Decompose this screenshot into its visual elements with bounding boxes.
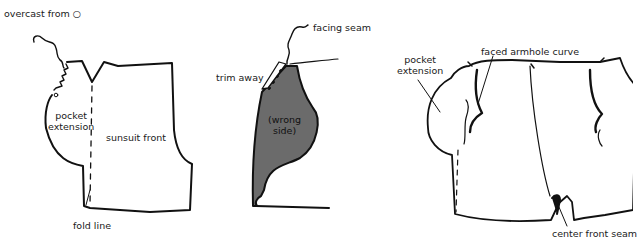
facing-seam-thread bbox=[287, 25, 308, 64]
center-front-notch bbox=[531, 64, 534, 68]
right-armhole bbox=[590, 70, 602, 132]
label-faced-armhole-curve: faced armhole curve bbox=[481, 46, 579, 57]
overcast-stitch bbox=[54, 64, 68, 90]
label-pocket-line2-right: extension bbox=[397, 65, 443, 76]
left-armhole bbox=[470, 70, 482, 132]
overcast-start-marker bbox=[54, 93, 58, 97]
fold-line bbox=[90, 86, 92, 204]
label-fold-line: fold line bbox=[73, 220, 111, 231]
fold-line-leader bbox=[86, 190, 90, 205]
armhole-leader bbox=[478, 56, 493, 104]
left-pocket-hook bbox=[464, 100, 468, 144]
label-facing-seam: facing seam bbox=[313, 22, 371, 33]
facing-edge bbox=[290, 59, 338, 64]
label-center-front-seam: center front seam bbox=[552, 228, 637, 239]
overcast-thread bbox=[34, 36, 64, 68]
label-wrong-line2: side) bbox=[268, 125, 301, 136]
figure-finished-front bbox=[418, 56, 633, 226]
label-wrong-side: (wrong side) bbox=[268, 114, 301, 136]
label-pocket-line1-right: pocket bbox=[397, 54, 443, 65]
label-pocket-extension-right: pocket extension bbox=[397, 54, 443, 76]
center-front-seam bbox=[530, 66, 550, 196]
label-overcast-from: overcast from ○ bbox=[4, 8, 81, 19]
left-fold-line bbox=[456, 150, 458, 212]
label-pocket-line1: pocket bbox=[48, 110, 94, 121]
label-sunsuit-front: sunsuit front bbox=[106, 132, 166, 143]
right-pocket-hook bbox=[598, 130, 602, 146]
label-pocket-line2: extension bbox=[48, 121, 94, 132]
label-pocket-extension-left: pocket extension bbox=[48, 110, 94, 132]
label-wrong-line1: (wrong bbox=[268, 114, 301, 125]
bottom-fold bbox=[256, 206, 329, 208]
finished-front-outline bbox=[428, 58, 633, 221]
label-trim-away: trim away bbox=[216, 72, 264, 83]
